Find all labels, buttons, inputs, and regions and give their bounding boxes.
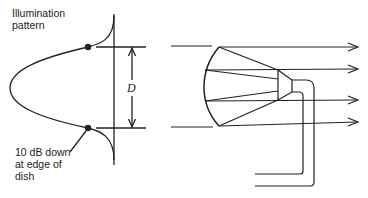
feed-horn [278, 70, 292, 100]
feed-ray-4 [219, 100, 278, 126]
edge-attenuation-label: 10 dB down at edge of dish [15, 146, 70, 182]
feed-ray-2 [205, 70, 278, 79]
illumination-pattern-curve [10, 16, 114, 160]
outgoing-ray-4 [219, 122, 357, 126]
upper-edge-dot [85, 44, 91, 50]
leader-line [70, 131, 86, 152]
parabolic-dish [204, 47, 219, 126]
outgoing-ray-3 [205, 100, 357, 101]
feed-ray-1 [219, 47, 278, 70]
lower-edge-dot [85, 125, 91, 131]
diameter-label: D [127, 81, 136, 96]
outgoing-ray-2 [205, 69, 357, 70]
illumination-pattern-label: Illumination pattern [12, 7, 65, 31]
feed-ray-3 [205, 91, 278, 101]
waveguide-inner [255, 92, 303, 174]
